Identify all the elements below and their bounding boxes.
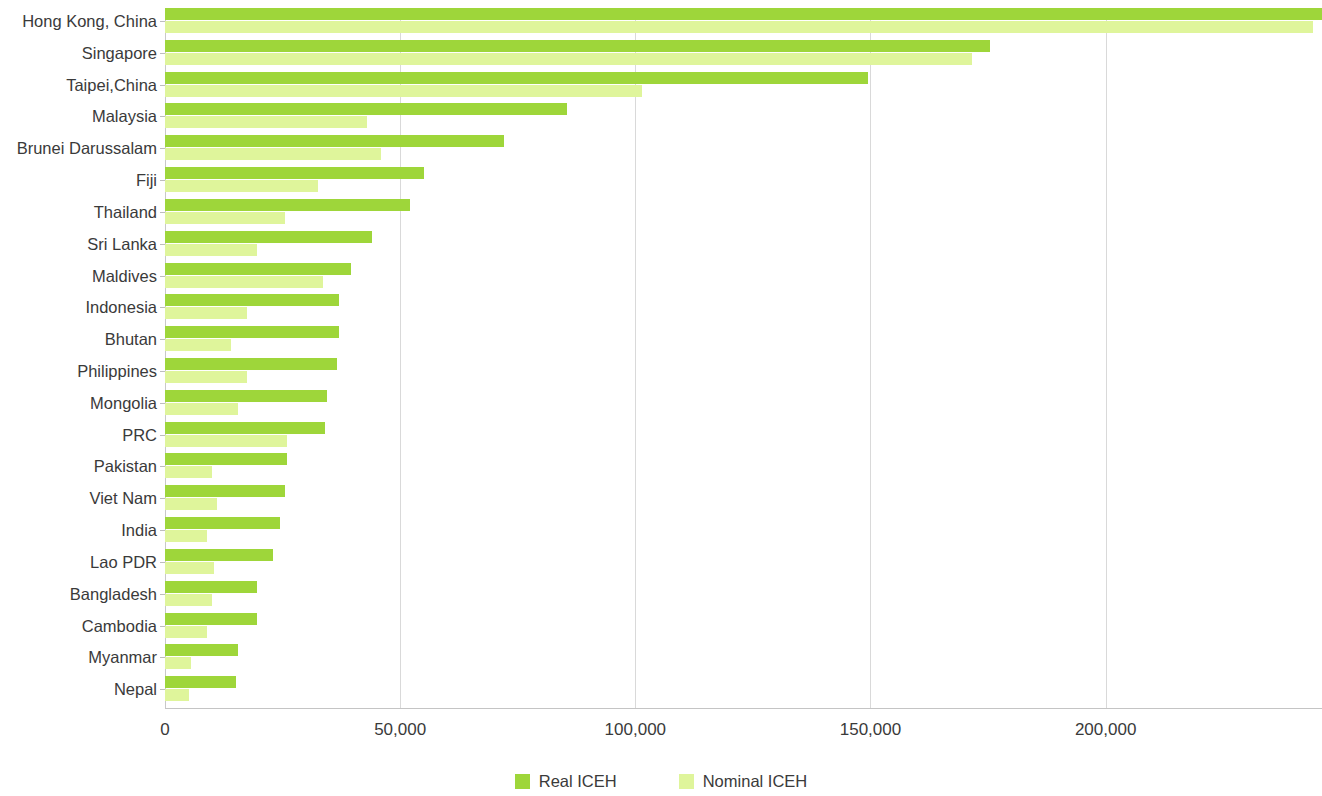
bar-nominal xyxy=(165,339,231,351)
category-tick-mark xyxy=(160,689,165,690)
bar-group xyxy=(165,40,1322,71)
category-label: Mongolia xyxy=(0,395,157,412)
legend-item[interactable]: Real ICEH xyxy=(515,772,617,791)
bar-nominal xyxy=(165,180,318,192)
category-tick-mark xyxy=(160,212,165,213)
legend-item[interactable]: Nominal ICEH xyxy=(679,772,808,791)
bar-nominal xyxy=(165,21,1313,33)
bar-real xyxy=(165,485,285,497)
bar-group xyxy=(165,613,1322,644)
bar-nominal xyxy=(165,276,323,288)
category-tick-mark xyxy=(160,530,165,531)
bar-nominal xyxy=(165,466,212,478)
bar-real xyxy=(165,676,236,688)
bar-nominal xyxy=(165,244,257,256)
category-label: Thailand xyxy=(0,204,157,221)
category-label: Bangladesh xyxy=(0,586,157,603)
category-tick-mark xyxy=(160,498,165,499)
bar-group xyxy=(165,72,1322,103)
bar-nominal xyxy=(165,85,642,97)
horizontal-bar-chart: Hong Kong, ChinaSingaporeTaipei,ChinaMal… xyxy=(0,0,1322,796)
bar-group xyxy=(165,422,1322,453)
category-tick-mark xyxy=(160,435,165,436)
category-tick-mark xyxy=(160,594,165,595)
bar-real xyxy=(165,167,424,179)
bar-real xyxy=(165,613,257,625)
bar-group xyxy=(165,8,1322,39)
category-label: PRC xyxy=(0,427,157,444)
x-tick-label: 150,000 xyxy=(840,720,901,740)
category-label: Brunei Darussalam xyxy=(0,140,157,157)
category-label: Lao PDR xyxy=(0,554,157,571)
bar-real xyxy=(165,199,410,211)
category-label: Sri Lanka xyxy=(0,236,157,253)
chart-legend: Real ICEHNominal ICEH xyxy=(0,772,1322,791)
bar-nominal xyxy=(165,435,287,447)
bar-real xyxy=(165,103,567,115)
category-label: Myanmar xyxy=(0,649,157,666)
bar-group xyxy=(165,485,1322,516)
bar-group xyxy=(165,517,1322,548)
bar-group xyxy=(165,167,1322,198)
legend-swatch-icon xyxy=(515,774,530,789)
bar-nominal xyxy=(165,212,285,224)
bar-nominal xyxy=(165,562,214,574)
bar-real xyxy=(165,294,339,306)
bar-group xyxy=(165,644,1322,675)
bar-real xyxy=(165,358,337,370)
legend-label: Nominal ICEH xyxy=(703,772,808,791)
category-tick-mark xyxy=(160,53,165,54)
category-tick-mark xyxy=(160,562,165,563)
category-tick-mark xyxy=(160,339,165,340)
category-tick-mark xyxy=(160,116,165,117)
bar-real xyxy=(165,390,327,402)
legend-swatch-icon xyxy=(679,774,694,789)
bar-nominal xyxy=(165,657,191,669)
category-tick-mark xyxy=(160,466,165,467)
category-tick-mark xyxy=(160,148,165,149)
category-tick-mark xyxy=(160,21,165,22)
bar-real xyxy=(165,231,372,243)
bar-group xyxy=(165,326,1322,357)
bar-group xyxy=(165,231,1322,262)
bar-group xyxy=(165,358,1322,389)
category-label: Bhutan xyxy=(0,331,157,348)
plot-area xyxy=(165,8,1322,708)
bar-real xyxy=(165,644,238,656)
x-tick-label: 100,000 xyxy=(605,720,666,740)
bar-real xyxy=(165,581,257,593)
category-label: Fiji xyxy=(0,172,157,189)
category-label: Cambodia xyxy=(0,618,157,635)
bar-nominal xyxy=(165,371,247,383)
bar-nominal xyxy=(165,498,217,510)
bar-group xyxy=(165,390,1322,421)
bar-nominal xyxy=(165,594,212,606)
category-tick-mark xyxy=(160,180,165,181)
bar-nominal xyxy=(165,689,189,701)
category-tick-mark xyxy=(160,244,165,245)
bar-group xyxy=(165,199,1322,230)
bar-nominal xyxy=(165,148,381,160)
category-label: Maldives xyxy=(0,268,157,285)
x-tick-label: 50,000 xyxy=(374,720,426,740)
category-tick-mark xyxy=(160,657,165,658)
category-tick-mark xyxy=(160,403,165,404)
bar-group xyxy=(165,676,1322,707)
bar-group xyxy=(165,453,1322,484)
category-label: Malaysia xyxy=(0,108,157,125)
category-label: Viet Nam xyxy=(0,490,157,507)
category-label: Pakistan xyxy=(0,458,157,475)
category-label: Nepal xyxy=(0,681,157,698)
bar-nominal xyxy=(165,530,207,542)
category-label: Singapore xyxy=(0,45,157,62)
x-tick-label: 200,000 xyxy=(1075,720,1136,740)
bar-nominal xyxy=(165,116,367,128)
bar-group xyxy=(165,135,1322,166)
bar-real xyxy=(165,72,868,84)
bar-nominal xyxy=(165,307,247,319)
category-tick-mark xyxy=(160,276,165,277)
bar-group xyxy=(165,549,1322,580)
bar-real xyxy=(165,326,339,338)
category-tick-mark xyxy=(160,85,165,86)
bar-nominal xyxy=(165,626,207,638)
